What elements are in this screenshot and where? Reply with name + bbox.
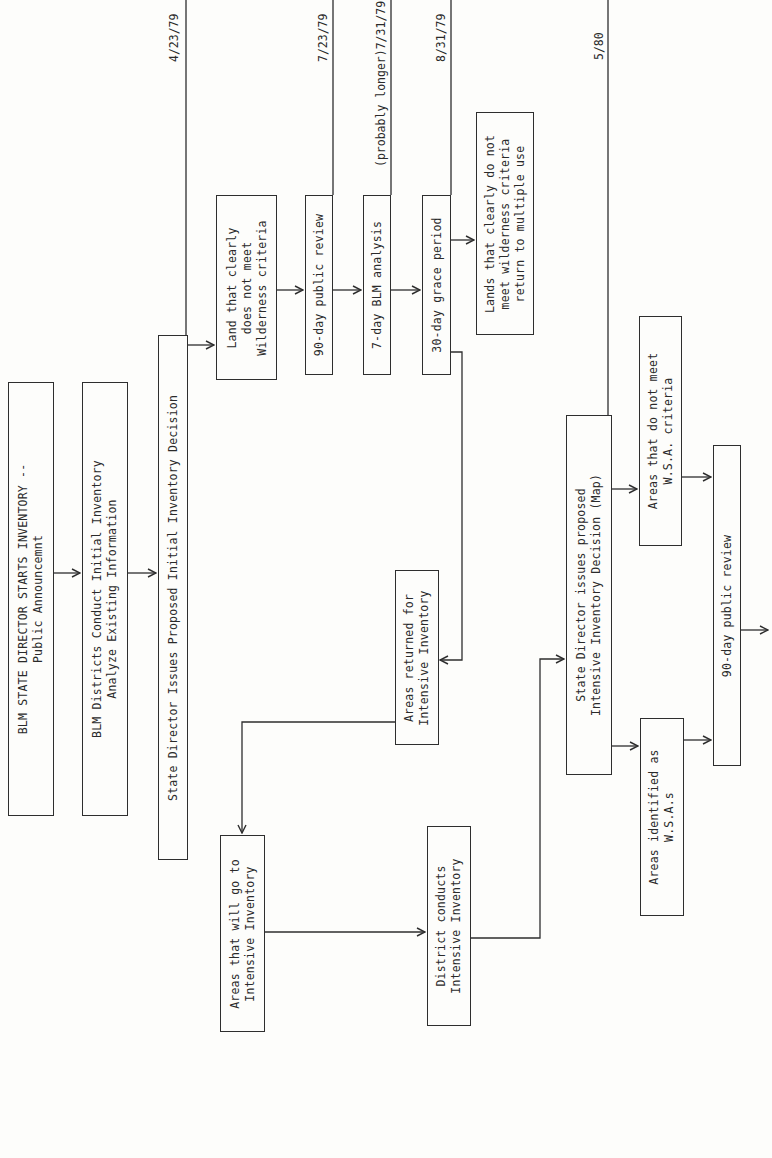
box-not-meet-wsa-criteria: Areas that do not meetW.S.A. criteria: [639, 316, 682, 546]
box-areas-returned-intensive: Areas returned forIntensive Inventory: [395, 570, 439, 745]
date-label-5-80: 5/80: [592, 32, 606, 60]
date-label-7-23-79: 7/23/79: [316, 14, 330, 62]
box-land-not-meet-criteria: Land that clearlydoes not meetWilderness…: [216, 195, 277, 380]
date-label-7-31-79: (probably longer)7/31/79: [374, 1, 388, 167]
box-start-inventory: BLM STATE DIRECTOR STARTS INVENTORY --Pu…: [8, 382, 54, 816]
box-7-day-blm-analysis: 7-day BLM analysis: [363, 195, 391, 375]
box-district-conducts-intensive: District conductsIntensive Inventory: [427, 826, 471, 1026]
box-proposed-intensive-decision: State Director issues proposedIntensive …: [566, 415, 612, 775]
box-90-day-public-review-1: 90-day public review: [305, 195, 333, 375]
box-proposed-initial-decision: State Director Issues Proposed Initial I…: [158, 335, 188, 860]
box-90-day-public-review-2: 90-day public review: [713, 445, 741, 766]
box-districts-initial-inventory: BLM Districts Conduct Initial InventoryA…: [82, 382, 128, 816]
box-areas-will-go-intensive: Areas that will go toIntensive Inventory: [220, 835, 265, 1032]
box-30-day-grace-period: 30-day grace period: [422, 195, 451, 375]
date-label-8-31-79: 8/31/79: [434, 14, 448, 62]
date-label-4-23-79: 4/23/79: [167, 14, 181, 62]
box-return-to-multiple-use: Lands that clearly do notmeet wilderness…: [476, 112, 534, 335]
box-identified-as-wsa: Areas identified asW.S.A.s: [640, 718, 684, 916]
